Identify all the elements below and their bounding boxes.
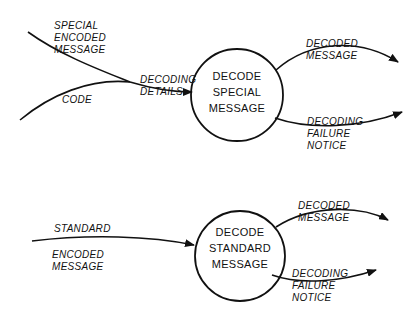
flow-line: Standard: [54, 223, 111, 235]
flow-line: Failure: [307, 128, 363, 140]
flow-line: Decoding: [140, 74, 196, 86]
flow-label-decoded-message-1: Decoded Message: [306, 38, 358, 62]
process-line: Decode: [197, 68, 277, 84]
flow-line: Decoding: [307, 116, 363, 128]
process-line: Special: [197, 84, 277, 100]
flow-label-decoding-failure-notice-2: Decoding Failure Notice: [292, 268, 348, 304]
flow-line: Notice: [292, 292, 348, 304]
flow-line: Message: [52, 261, 104, 273]
flow-line: Details: [140, 86, 196, 98]
flow-line: Message: [298, 212, 350, 224]
process-line: Standard: [200, 240, 280, 256]
flow-line: Code: [62, 94, 92, 106]
flow-line: Notice: [307, 140, 363, 152]
process-label-decode-special: Decode Special Message: [197, 68, 277, 116]
process-line: Message: [197, 100, 277, 116]
flow-label-decoded-message-2: Decoded Message: [298, 200, 350, 224]
flow-line: Failure: [292, 280, 348, 292]
flow-line: Decoded: [306, 38, 358, 50]
process-label-decode-standard: Decode Standard Message: [200, 224, 280, 272]
flow-label-code: Code: [62, 94, 92, 106]
flow-line: Special: [54, 20, 106, 32]
process-line: Decode: [200, 224, 280, 240]
flow-label-decoding-failure-notice-1: Decoding Failure Notice: [307, 116, 363, 152]
flow-standard-encoded-message-arrow: [32, 237, 194, 245]
flow-label-decoding-details: Decoding Details: [140, 74, 196, 98]
flow-line: Decoded: [298, 200, 350, 212]
flow-line: Message: [306, 50, 358, 62]
flow-label-special-encoded-message: Special Encoded Message: [54, 20, 106, 56]
flow-line: Decoding: [292, 268, 348, 280]
flow-line: Encoded: [54, 32, 106, 44]
flow-label-standard: Standard: [54, 223, 111, 235]
process-line: Message: [200, 256, 280, 272]
flow-line: Message: [54, 44, 106, 56]
flow-label-encoded-message: Encoded Message: [52, 249, 104, 273]
flow-line: Encoded: [52, 249, 104, 261]
